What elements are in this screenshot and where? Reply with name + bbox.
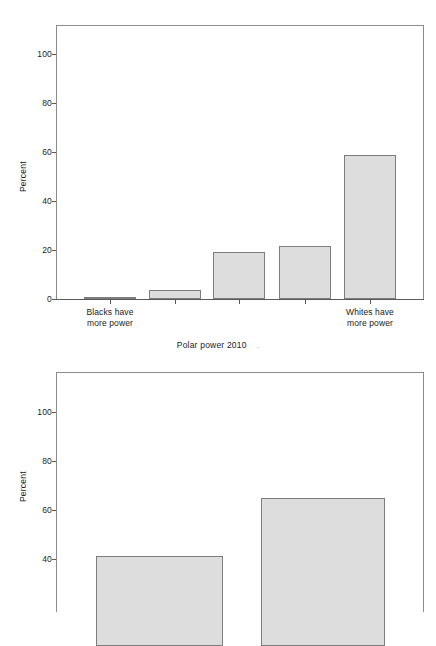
top-chart-xtick-1: [110, 300, 111, 304]
bottom-chart-ytick-mark-100: [52, 412, 56, 413]
bottom-chart-ytick-60: 60: [24, 505, 52, 515]
top-chart-x-axis-title-mark: .: [257, 340, 260, 350]
top-chart-ytick-80: 80: [24, 98, 52, 108]
bottom-chart-bar-2: [261, 498, 385, 646]
top-chart-ytick-mark-60: [52, 152, 56, 153]
top-chart-category-label-right-line1: Whites have: [322, 307, 418, 318]
top-chart-bar-4: [279, 246, 331, 299]
top-chart-xtick-5: [370, 300, 371, 304]
bottom-chart-ytick-mark-40: [52, 559, 56, 560]
top-chart-category-label-left-line1: Blacks have: [62, 307, 158, 318]
top-chart-ytick-60: 60: [24, 147, 52, 157]
bottom-chart-ytick-mark-60: [52, 510, 56, 511]
bottom-chart-y-axis-title: Percent: [18, 471, 28, 502]
top-chart-ytick-mark-80: [52, 103, 56, 104]
top-chart-ytick-mark-40: [52, 201, 56, 202]
top-chart-ytick-mark-0: [52, 299, 56, 300]
top-chart-x-axis: [56, 299, 424, 300]
top-chart-xtick-3: [239, 300, 240, 304]
top-chart: 100 80 60 40 20 0 Percent Blacks have mo…: [0, 0, 436, 360]
top-chart-ytick-40: 40: [24, 196, 52, 206]
top-chart-ytick-20: 20: [24, 245, 52, 255]
bottom-chart-ytick-100: 100: [24, 407, 52, 417]
top-chart-y-axis-title: Percent: [18, 161, 28, 192]
top-chart-category-label-right-line2: more power: [322, 318, 418, 329]
bottom-chart: 100 80 60 40 Percent: [0, 360, 436, 604]
top-chart-x-axis-title-text: Polar power 2010: [177, 340, 247, 350]
top-chart-xtick-4: [305, 300, 306, 304]
top-chart-bar-2: [149, 290, 201, 299]
top-chart-ytick-mark-20: [52, 250, 56, 251]
top-chart-ytick-100: 100: [24, 49, 52, 59]
top-chart-xtick-2: [175, 300, 176, 304]
top-chart-category-label-left-line2: more power: [62, 318, 158, 329]
bottom-chart-ytick-80: 80: [24, 456, 52, 466]
bottom-chart-ytick-40: 40: [24, 554, 52, 564]
top-chart-bar-1: [84, 297, 136, 299]
top-chart-bar-3: [213, 252, 265, 299]
bottom-chart-ytick-mark-80: [52, 461, 56, 462]
bottom-chart-bar-1: [96, 556, 223, 646]
top-chart-ytick-mark-100: [52, 54, 56, 55]
top-chart-x-axis-title: Polar power 2010.: [0, 340, 436, 350]
top-chart-bar-5: [344, 155, 396, 299]
top-chart-ytick-0: 0: [24, 294, 52, 304]
